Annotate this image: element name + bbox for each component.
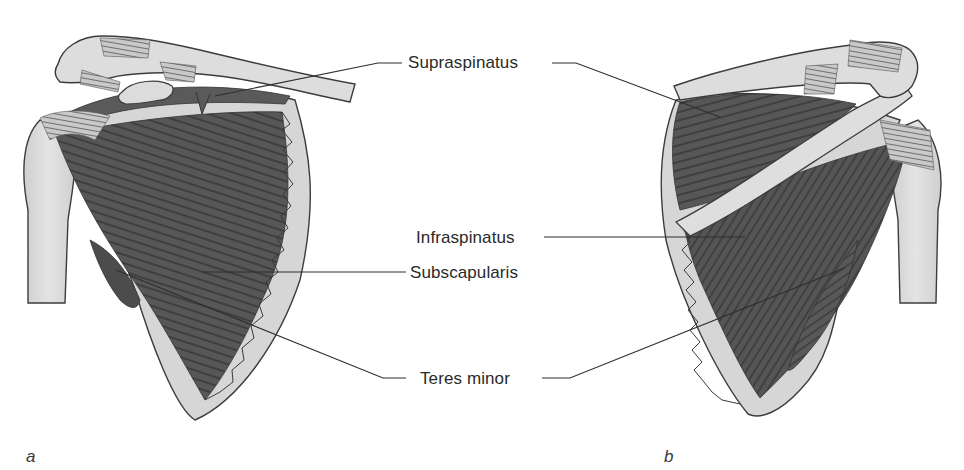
panel-label-a: a	[26, 448, 35, 465]
panel-b-artwork	[661, 40, 941, 416]
panel-label-b: b	[664, 448, 673, 465]
label-infraspinatus: Infraspinatus	[416, 229, 515, 246]
rotator-cuff-figure: Supraspinatus Infraspinatus Subscapulari…	[0, 0, 964, 470]
label-subscapularis: Subscapularis	[410, 264, 518, 281]
panel-a-artwork	[24, 36, 355, 420]
label-teres-minor: Teres minor	[420, 370, 510, 387]
label-supraspinatus: Supraspinatus	[408, 54, 518, 71]
